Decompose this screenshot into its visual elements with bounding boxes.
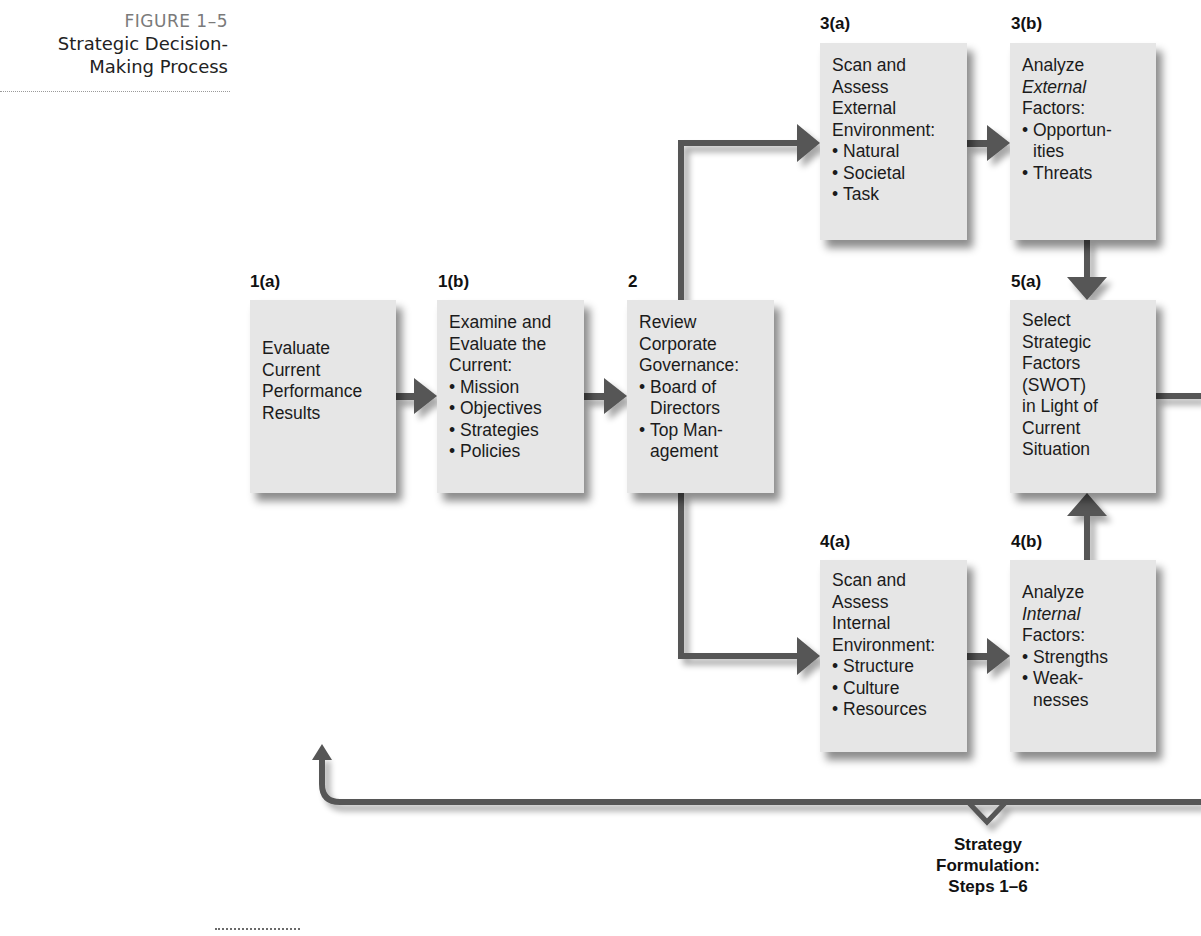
box-text: Results <box>262 403 388 425</box>
bullet-continuation: nesses <box>1022 690 1148 712</box>
box-text: Examine and <box>449 312 576 334</box>
bullet-item: Policies <box>449 441 576 463</box>
step-label-4b: 4(b) <box>1011 532 1042 552</box>
emphasis-internal: Internal <box>1022 604 1080 624</box>
step-box-external-environment: Scan and Assess External Environment: Na… <box>820 43 967 240</box>
box-text: Review <box>639 312 766 334</box>
box-text: Scan and <box>832 55 959 77</box>
arrow-1b-to-2 <box>584 378 627 414</box>
bullet-continuation: agement <box>639 441 766 463</box>
bullet-item: Weak- <box>1022 668 1148 690</box>
feedback-bracket <box>322 755 1201 822</box>
box-text: Environment: <box>832 120 959 142</box>
bullet-item: Strengths <box>1022 647 1148 669</box>
box-text: Internal <box>832 613 959 635</box>
caption-line: Formulation: <box>917 855 1059 876</box>
box-text: Current <box>262 360 388 382</box>
step-label-4a: 4(a) <box>820 532 850 552</box>
caption-line: Steps 1–6 <box>917 876 1059 897</box>
box-text: Analyze <box>1022 55 1148 77</box>
box-text: Assess <box>832 77 959 99</box>
bullet-item: Top Man- <box>639 420 766 442</box>
step-box-examine-current: Examine and Evaluate the Current: Missio… <box>437 300 584 493</box>
bullet-item: Strategies <box>449 420 576 442</box>
step-box-internal-environment: Scan and Assess Internal Environment: St… <box>820 560 967 752</box>
arrow-2-to-4a <box>678 493 800 659</box>
box-text: Situation <box>1022 439 1148 461</box>
box-text: Strategic <box>1022 332 1148 354</box>
box-text-emphasis: Internal <box>1022 604 1148 626</box>
bullet-item: Objectives <box>449 398 576 420</box>
step-label-1b: 1(b) <box>438 272 469 292</box>
box-text: Factors: <box>1022 98 1148 120</box>
box-text: Analyze <box>1022 582 1148 604</box>
step-box-select-strategic-factors: Select Strategic Factors (SWOT) in Light… <box>1010 300 1156 493</box>
box-text: Corporate <box>639 334 766 356</box>
footer-divider <box>215 928 300 930</box>
box-text: Current <box>1022 418 1148 440</box>
box-text: External <box>832 98 959 120</box>
arrow-1a-to-1b <box>396 378 437 414</box>
bullet-item: Resources <box>832 699 959 721</box>
bullet-item: Board of <box>639 377 766 399</box>
bullet-item: Natural <box>832 141 959 163</box>
box-text-emphasis: External <box>1022 77 1148 99</box>
box-text: (SWOT) <box>1022 375 1148 397</box>
step-label-5a: 5(a) <box>1011 272 1041 292</box>
bullet-item: Mission <box>449 377 576 399</box>
box-text: Factors <box>1022 353 1148 375</box>
bullet-item: Societal <box>832 163 959 185</box>
box-text: Evaluate the <box>449 334 576 356</box>
bullet-continuation: ities <box>1022 141 1148 163</box>
box-text: Environment: <box>832 635 959 657</box>
step-label-2: 2 <box>628 272 637 292</box>
step-box-evaluate-performance: Evaluate Current Performance Results <box>250 300 396 493</box>
step-label-3b: 3(b) <box>1011 14 1042 34</box>
box-text: Evaluate <box>262 338 388 360</box>
bullet-item: Opportun- <box>1022 120 1148 142</box>
bullet-item: Threats <box>1022 163 1148 185</box>
step-label-3a: 3(a) <box>820 14 850 34</box>
box-text: Governance: <box>639 355 766 377</box>
step-box-internal-factors: Analyze Internal Factors: Strengths Weak… <box>1010 560 1156 752</box>
box-text: Select <box>1022 310 1148 332</box>
box-text: Scan and <box>832 570 959 592</box>
emphasis-external: External <box>1022 77 1086 97</box>
bullet-item: Task <box>832 184 959 206</box>
box-text: Current: <box>449 355 576 377</box>
caption-line: Strategy <box>917 834 1059 855</box>
step-label-1a: 1(a) <box>250 272 280 292</box>
arrow-2-to-3a <box>678 140 800 300</box>
bracket-caption: Strategy Formulation: Steps 1–6 <box>917 834 1059 897</box>
bullet-item: Structure <box>832 656 959 678</box>
step-box-external-factors: Analyze External Factors: Opportun- itie… <box>1010 43 1156 240</box>
box-text: in Light of <box>1022 396 1148 418</box>
bullet-item: Culture <box>832 678 959 700</box>
bullet-continuation: Directors <box>639 398 766 420</box>
box-text: Assess <box>832 592 959 614</box>
step-box-corporate-governance: Review Corporate Governance: Board of Di… <box>627 300 774 493</box>
box-text: Factors: <box>1022 625 1148 647</box>
box-text: Performance <box>262 381 388 403</box>
